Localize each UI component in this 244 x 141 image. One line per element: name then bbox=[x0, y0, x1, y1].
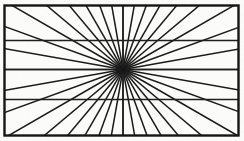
paper-grain-overlay bbox=[0, 0, 244, 141]
figure-canvas bbox=[0, 0, 244, 141]
radiating-line-figure bbox=[0, 0, 244, 141]
